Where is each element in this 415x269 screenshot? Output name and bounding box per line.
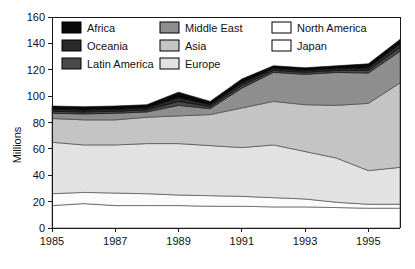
y-tick-label-20: 20 [33,196,45,208]
x-axis-ticks [52,228,368,232]
y-tick-label-80: 80 [33,117,45,129]
legend-label-north-america: North America [297,22,368,34]
x-tick-label-1991: 1991 [230,235,254,247]
legend-swatch-asia [160,40,179,51]
legend-label-africa: Africa [87,22,116,34]
legend-label-europe: Europe [185,58,220,70]
y-tick-label-120: 120 [27,64,45,76]
legend-swatch-north-america [272,22,291,33]
chart-canvas: 020406080100120140160 198519871989199119… [0,0,415,269]
x-tick-label-1995: 1995 [356,235,380,247]
legend-swatch-latin-america [62,58,81,69]
legend-label-middle-east: Middle East [185,22,242,34]
x-axis-tick-labels: 198519871989199119931995 [40,235,381,247]
x-tick-label-1985: 1985 [40,235,64,247]
legend-label-japan: Japan [297,40,327,52]
y-tick-label-140: 140 [27,37,45,49]
x-tick-label-1993: 1993 [293,235,317,247]
chart-legend: AfricaOceaniaLatin AmericaMiddle EastAsi… [62,22,368,70]
legend-label-oceania: Oceania [87,40,129,52]
legend-label-asia: Asia [185,40,207,52]
legend-swatch-middle-east [160,22,179,33]
y-tick-label-160: 160 [27,11,45,23]
y-tick-label-40: 40 [33,169,45,181]
y-tick-label-0: 0 [39,222,45,234]
x-tick-label-1989: 1989 [166,235,190,247]
legend-swatch-africa [62,22,81,33]
y-axis-title: Millions [11,126,23,163]
legend-label-latin-america: Latin America [87,58,155,70]
legend-swatch-oceania [62,40,81,51]
legend-swatch-japan [272,40,291,51]
y-tick-label-60: 60 [33,143,45,155]
legend-swatch-europe [160,58,179,69]
y-tick-label-100: 100 [27,90,45,102]
y-axis-ticks [48,17,52,228]
stacked-area-chart: 020406080100120140160 198519871989199119… [0,0,415,269]
y-axis-tick-labels: 020406080100120140160 [27,11,45,234]
x-tick-label-1987: 1987 [103,235,127,247]
